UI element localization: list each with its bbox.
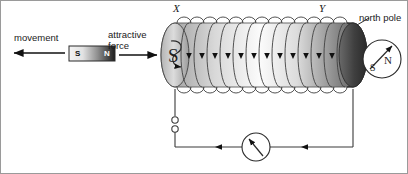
compass-south-label: S xyxy=(370,62,376,73)
diagram-canvas: movement attractive force north pole X Y… xyxy=(0,0,408,174)
north-pole-label: north pole xyxy=(359,12,401,23)
bar-magnet-south-label: S xyxy=(75,49,80,58)
terminal-y-label: Y xyxy=(319,3,325,14)
attractive-force-line2: force xyxy=(108,40,129,51)
attractive-force-line1: attractive xyxy=(108,29,147,40)
attractive-force-label: attractive force xyxy=(108,29,147,51)
galvanometer[interactable] xyxy=(242,133,270,161)
movement-label: movement xyxy=(14,32,58,43)
terminal-x-label: X xyxy=(173,3,180,14)
compass xyxy=(363,40,401,78)
terminal-lower[interactable] xyxy=(172,126,178,132)
solenoid-south-pole-label: S xyxy=(168,45,179,67)
compass-north-label: N xyxy=(384,54,392,66)
circuit-terminals[interactable] xyxy=(172,117,178,132)
diagram-svg xyxy=(1,1,408,174)
terminal-upper[interactable] xyxy=(172,117,178,123)
bar-magnet-north-label: N xyxy=(104,49,110,58)
solenoid xyxy=(161,17,367,93)
